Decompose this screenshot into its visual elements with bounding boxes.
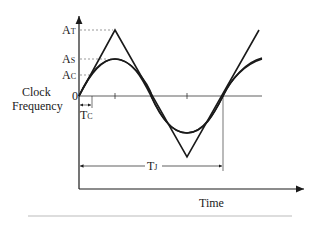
label-tc: TC (80, 109, 93, 123)
label-as: AS (62, 53, 75, 67)
label-ac: AC (62, 69, 76, 83)
label-zero: 0 (72, 90, 78, 102)
triangle-waveform (79, 30, 259, 157)
label-at: AT (62, 24, 76, 38)
label-tj: TJ (146, 160, 158, 174)
y-axis-title-line2: Frequency (12, 100, 63, 112)
x-axis-title: Time (199, 197, 224, 209)
sine-waveform-smooth (79, 58, 262, 133)
y-axis-title-line1: Clock (22, 86, 51, 98)
